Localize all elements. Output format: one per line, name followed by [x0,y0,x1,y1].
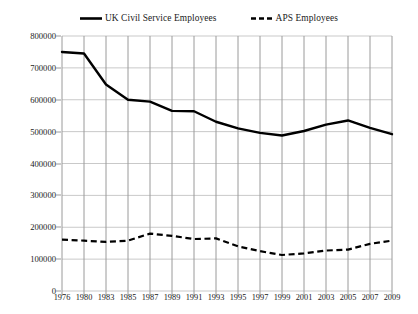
x-axis: 1976198019831985198719891991199319951997… [62,293,392,313]
plot-svg [62,36,392,291]
x-axis-tick-label: 1999 [274,293,291,302]
y-axis-tick-mark [56,259,61,260]
y-axis-tick-mark [56,131,61,132]
plot-area [62,36,392,291]
y-axis-tick-label: 500000 [30,127,56,137]
x-axis-tick-label: 1976 [54,293,71,302]
series-line-uk-civil-service [62,52,392,136]
y-axis-tick-label: 800000 [30,31,56,41]
legend-entry-uk-civil-service: UK Civil Service Employees [80,13,217,23]
y-axis-tick-mark [56,99,61,100]
x-axis-tick-label: 1987 [142,293,159,302]
x-axis-tick-label: 2001 [296,293,313,302]
x-axis-tick-label: 2003 [318,293,335,302]
legend-entry-aps: APS Employees [251,13,339,23]
line-chart: UK Civil Service Employees APS Employees… [0,0,418,314]
y-axis-tick-mark [56,36,61,37]
y-axis-tick-mark [56,227,61,228]
legend-label-aps: APS Employees [276,13,339,23]
y-axis-tick-mark [56,163,61,164]
y-axis-tick-mark [56,195,61,196]
x-axis-tick-label: 1997 [252,293,269,302]
series-line-aps [62,234,392,255]
y-axis-tick-mark [56,67,61,68]
y-axis-tick-label: 700000 [30,63,56,73]
horizontal-gridlines [62,36,392,291]
y-axis-tick-label: 100000 [30,254,56,264]
x-axis-tick-label: 2007 [362,293,379,302]
x-axis-tick-label: 2005 [340,293,357,302]
dashed-line-swatch-icon [251,14,273,23]
x-axis-tick-label: 1980 [76,293,93,302]
x-axis-tick-label: 1989 [164,293,181,302]
x-axis-tick-label: 2009 [384,293,401,302]
y-axis-tick-label: 600000 [30,95,56,105]
x-axis-tick-label: 1985 [120,293,137,302]
x-axis-tick-label: 1993 [208,293,225,302]
y-axis-tick-label: 400000 [30,159,56,169]
legend-label-uk-civil-service: UK Civil Service Employees [105,13,217,23]
x-axis-tick-label: 1991 [186,293,203,302]
y-axis-tick-label: 300000 [30,190,56,200]
x-axis-tick-label: 1983 [98,293,115,302]
y-axis-tick-mark [56,291,61,292]
vertical-gridlines [62,36,392,296]
y-axis: 0100000200000300000400000500000600000700… [0,36,56,291]
solid-line-swatch-icon [80,14,102,23]
x-axis-tick-label: 1995 [230,293,247,302]
chart-legend: UK Civil Service Employees APS Employees [0,13,418,23]
y-axis-tick-label: 200000 [30,222,56,232]
